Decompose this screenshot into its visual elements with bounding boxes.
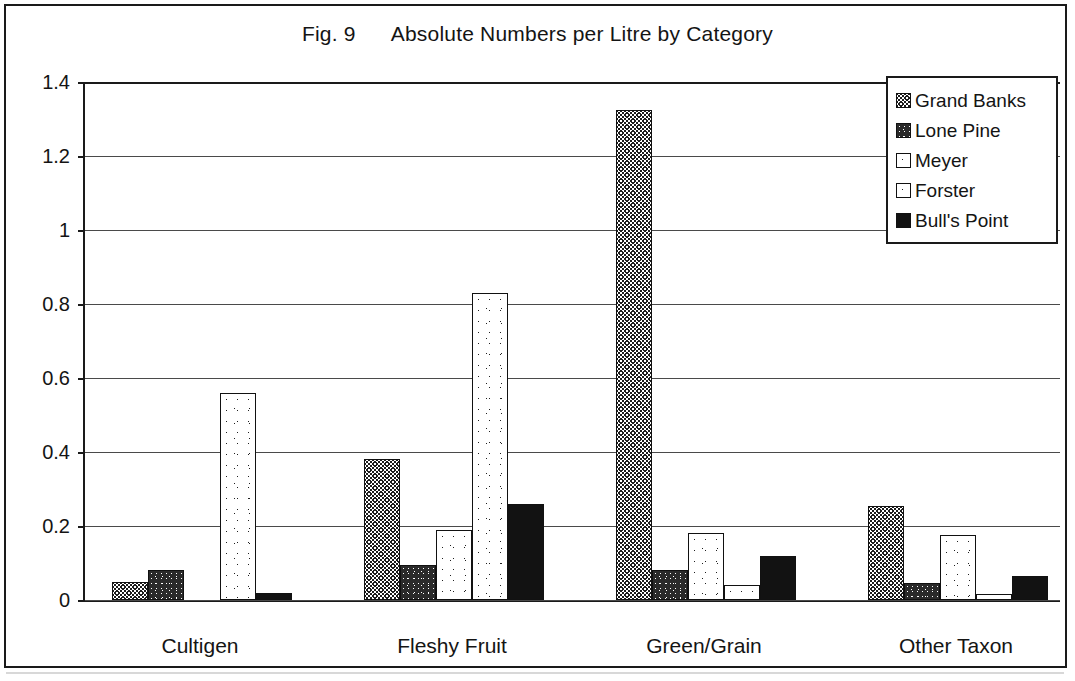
y-axis-tick <box>78 526 85 528</box>
y-axis-tick-label: 1.2 <box>8 146 70 166</box>
gridline <box>85 378 1060 379</box>
legend-item-label: Forster <box>915 181 975 200</box>
legend-item-label: Lone Pine <box>915 121 1001 140</box>
bar <box>976 594 1012 600</box>
y-axis-tick <box>78 156 85 158</box>
chart-page: Fig. 9 Absolute Numbers per Litre by Cat… <box>0 0 1075 681</box>
legend-item: Lone Pine <box>896 115 1050 145</box>
y-axis-tick-label: 0.6 <box>8 368 70 388</box>
legend-item-label: Bull's Point <box>915 211 1008 230</box>
legend-swatch-icon <box>896 213 911 228</box>
legend-swatch-icon <box>896 153 911 168</box>
bar <box>436 530 472 600</box>
legend-item: Forster <box>896 175 1050 205</box>
y-axis-tick <box>78 378 85 380</box>
y-axis-tick-label: 0.2 <box>8 516 70 536</box>
y-axis-tick <box>78 304 85 306</box>
bar <box>760 556 796 600</box>
y-axis-tick-label: 0.4 <box>8 442 70 462</box>
bar <box>364 459 400 600</box>
gridline <box>85 600 1060 601</box>
x-axis-category-label: Cultigen <box>90 634 310 658</box>
legend-swatch-icon <box>896 183 911 198</box>
bar <box>868 506 904 600</box>
y-axis-tick <box>78 82 85 84</box>
y-axis-tick-label: 1 <box>8 220 70 240</box>
legend-item-label: Grand Banks <box>915 91 1026 110</box>
y-axis-tick-label: 1.4 <box>8 72 70 92</box>
x-axis-category-label: Other Taxon <box>846 634 1066 658</box>
gridline <box>85 304 1060 305</box>
bar <box>256 593 292 600</box>
y-axis-tick <box>78 230 85 232</box>
bar <box>400 565 436 600</box>
bar <box>904 583 940 600</box>
bar <box>112 582 148 601</box>
legend-swatch-icon <box>896 93 911 108</box>
bar <box>1012 576 1048 600</box>
y-axis-tick-label: 0 <box>8 590 70 610</box>
page-title: Fig. 9 Absolute Numbers per Litre by Cat… <box>0 22 1075 46</box>
bar <box>220 393 256 600</box>
legend-item-label: Meyer <box>915 151 968 170</box>
y-axis-tick <box>78 600 85 602</box>
bar <box>688 533 724 600</box>
bar <box>724 585 760 600</box>
bar <box>508 504 544 600</box>
bar <box>616 110 652 600</box>
x-axis-category-label: Green/Grain <box>594 634 814 658</box>
legend-item: Bull's Point <box>896 205 1050 235</box>
legend-item: Meyer <box>896 145 1050 175</box>
bar <box>940 535 976 600</box>
legend-item: Grand Banks <box>896 85 1050 115</box>
bar <box>148 570 184 600</box>
x-axis-category-label: Fleshy Fruit <box>342 634 562 658</box>
bar <box>652 570 688 600</box>
bar <box>472 293 508 600</box>
scan-edge-artifact <box>6 672 1064 674</box>
y-axis-tick <box>78 452 85 454</box>
chart-legend: Grand BanksLone PineMeyerForsterBull's P… <box>886 76 1058 244</box>
y-axis-tick-label: 0.8 <box>8 294 70 314</box>
legend-swatch-icon <box>896 123 911 138</box>
